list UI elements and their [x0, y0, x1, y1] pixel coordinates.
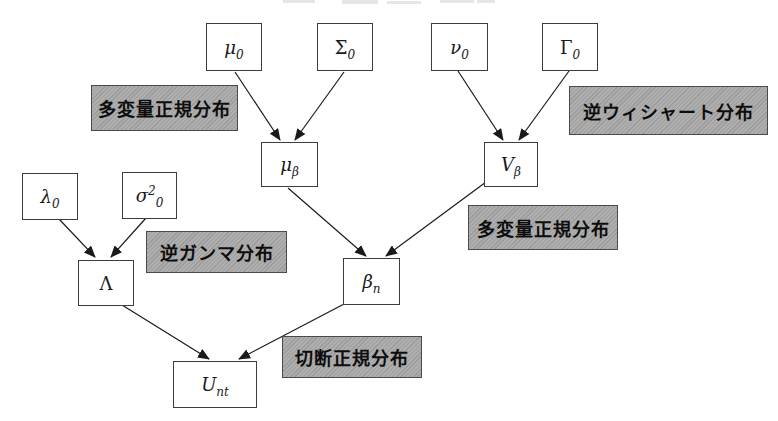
node-v-beta: Vβ: [484, 142, 538, 187]
edge-sigma20-to-lambda: [111, 218, 146, 257]
node-mu0-label: μ0: [224, 37, 243, 58]
node-sigma2-0-label: σ20: [136, 185, 164, 206]
label-multivariate-normal-top: 多変量正規分布: [91, 85, 238, 131]
node-sigma0-label: Σ0: [335, 37, 355, 58]
node-gamma0: Γ0: [542, 23, 598, 71]
bayesian-model-diagram: μ0 Σ0 ν0 Γ0 μβ Vβ λ0 σ20 Λ βn Unt 多変量正規分…: [0, 0, 778, 421]
edge-mu0-to-mubeta: [235, 72, 280, 140]
node-mu-beta-label: μβ: [280, 154, 299, 175]
node-beta-n: βn: [343, 258, 400, 305]
node-beta-n-label: βn: [362, 271, 380, 292]
node-u-nt: Unt: [173, 361, 257, 408]
edge-mubeta-to-betan: [288, 188, 366, 256]
node-lambda-cap-label: Λ: [100, 273, 113, 294]
node-lambda0-label: λ0: [40, 186, 59, 207]
edge-gamma0-to-vbeta: [519, 71, 569, 140]
edge-sigma0-to-mubeta: [295, 72, 344, 140]
node-mu0: μ0: [206, 23, 262, 71]
label-inverse-wishart: 逆ウィシャート分布: [569, 86, 768, 135]
node-v-beta-label: Vβ: [501, 154, 521, 175]
node-u-nt-label: Unt: [201, 374, 229, 395]
node-gamma0-label: Γ0: [560, 37, 580, 58]
node-sigma0: Σ0: [317, 23, 373, 71]
node-lambda-cap: Λ: [78, 260, 134, 306]
label-truncated-normal: 切断正規分布: [282, 336, 422, 378]
label-inverse-gamma: 逆ガンマ分布: [146, 231, 287, 273]
node-nu0-label: ν0: [450, 37, 469, 58]
edge-lambda0-to-lambda: [59, 219, 95, 257]
edge-nu0-to-vbeta: [458, 71, 503, 140]
node-lambda0: λ0: [22, 173, 78, 220]
node-mu-beta: μβ: [261, 142, 318, 187]
edge-lambda-to-unt: [122, 305, 209, 359]
label-multivariate-normal-mid: 多変量正規分布: [468, 205, 618, 250]
node-sigma2-0: σ20: [122, 172, 177, 219]
node-nu0: ν0: [431, 23, 488, 71]
